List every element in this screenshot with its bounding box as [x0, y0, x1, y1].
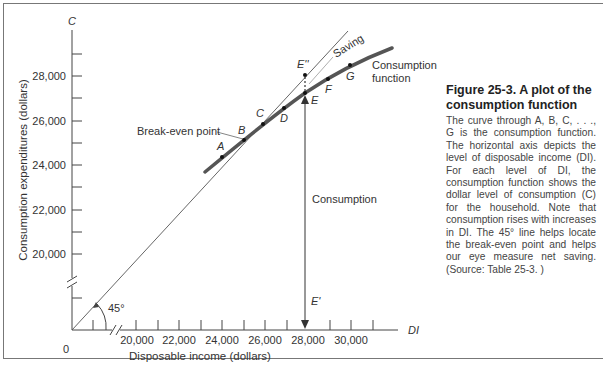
- x-tick-22000: 22,000: [162, 334, 196, 346]
- angle-label: 45°: [108, 302, 125, 314]
- point-label-d: D: [280, 112, 288, 124]
- x-tick-24000: 24,000: [205, 334, 239, 346]
- caption-title: Figure 25-3. A plot of the consumption f…: [446, 83, 596, 113]
- point-label-a: A: [216, 140, 224, 152]
- x-tick-26000: 26,000: [248, 334, 282, 346]
- point-label-e-double-prime: E'': [297, 58, 309, 70]
- point-label-e: E: [311, 94, 319, 106]
- point-label-e-prime: E': [311, 295, 321, 307]
- consumption-function-label-2: function: [372, 72, 411, 84]
- break-even-label: Break-even point: [137, 125, 220, 137]
- point-label-f: F: [325, 83, 333, 95]
- y-tick-20000: 20,000: [32, 248, 66, 260]
- point-label-c: C: [256, 107, 264, 119]
- y-tick-24000: 24,000: [32, 159, 66, 171]
- caption-body: The curve through A, B, C, . . ., G is t…: [446, 115, 596, 276]
- consumption-label: Consumption: [312, 193, 377, 205]
- origin-label: 0: [63, 343, 69, 355]
- point-label-g: G: [346, 70, 355, 82]
- y-tick-26000: 26,000: [32, 115, 66, 127]
- y-axis-symbol: C: [68, 15, 76, 27]
- y-axis: [67, 30, 82, 330]
- y-axis-title: Consumption expenditures (dollars): [17, 79, 29, 261]
- x-tick-28000: 28,000: [291, 334, 325, 346]
- point-label-b: B: [238, 124, 245, 136]
- x-tick-20000: 20,000: [120, 334, 154, 346]
- saving-label: Saving: [331, 32, 366, 60]
- x-axis: [72, 320, 398, 335]
- consumption-function-label-1: Consumption: [372, 59, 437, 71]
- angle-arc: [97, 304, 106, 330]
- y-tick-22000: 22,000: [32, 204, 66, 216]
- x-axis-title: Disposable income (dollars): [129, 350, 271, 362]
- x-tick-30000: 30,000: [334, 334, 368, 346]
- y-tick-28000: 28,000: [32, 70, 66, 82]
- figure-caption: Figure 25-3. A plot of the consumption f…: [446, 83, 596, 276]
- x-axis-symbol: DI: [408, 324, 419, 336]
